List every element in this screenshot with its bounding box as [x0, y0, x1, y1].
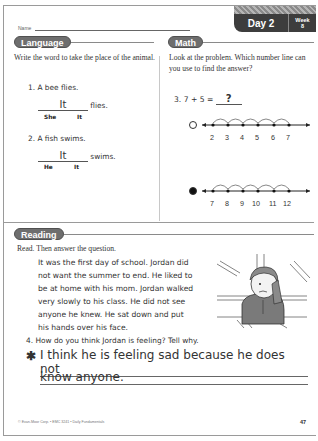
- math-problem: 3. 7 + 5 = ?: [174, 94, 242, 105]
- number-line-2-bubble-selected[interactable]: [189, 187, 197, 195]
- story-line: be at home with his mom. Jordan walked: [38, 282, 223, 295]
- nl1-label: 5: [255, 133, 259, 142]
- language-header: Language: [14, 36, 154, 48]
- number-line-1: 2 3 4 5 6 7: [202, 110, 312, 146]
- language-item-2: 2. A fish swims.: [28, 134, 86, 143]
- language-answer-2: It swims.: [38, 151, 116, 162]
- story-line: his hands over his face.: [38, 321, 223, 334]
- answer-blank-1[interactable]: It: [38, 100, 88, 111]
- story-line: anyone he knew. He sat down and put: [38, 308, 223, 321]
- reading-instructions: Read. Then answer the question.: [17, 244, 116, 255]
- nl2-label: 9: [240, 199, 244, 208]
- question-text: How do you think Jordan is feeling? Tell…: [35, 336, 198, 345]
- week-number: 8: [301, 23, 304, 29]
- language-rule: [71, 42, 154, 43]
- math-answer-blank[interactable]: ?: [216, 94, 242, 105]
- asterisk-icon: ✱: [26, 349, 36, 363]
- nl2-label: 12: [283, 199, 291, 208]
- math-instructions: Look at the problem. Which number line c…: [169, 53, 315, 74]
- item-sentence: A bee flies.: [37, 83, 78, 92]
- language-item-1: 1. A bee flies.: [28, 83, 78, 92]
- page-number: 47: [300, 419, 306, 425]
- number-line-1-graphic: [202, 110, 312, 132]
- math-header: Math: [168, 36, 314, 48]
- nl2-label: 11: [269, 199, 276, 208]
- day-week-tab: Day 2 Week 8: [234, 14, 316, 32]
- item-sentence: A fish swims.: [37, 134, 85, 143]
- choice-1a[interactable]: She: [44, 114, 56, 120]
- nl1-label: 3: [225, 133, 229, 142]
- story-line: very slowly to his class. He did not see: [38, 295, 223, 308]
- reading-title: Reading: [14, 228, 64, 240]
- language-answer-1: It flies.: [38, 100, 108, 111]
- reading-header: Reading: [14, 228, 314, 240]
- language-instructions: Write the word to take the place of the …: [14, 53, 156, 64]
- math-rule: [203, 42, 314, 43]
- reading-rule: [64, 234, 314, 235]
- reading-question: 4. How do you think Jordan is feeling? T…: [26, 336, 199, 345]
- day-label: Day 2: [234, 14, 289, 32]
- reading-story: It was the first day of school. Jordan d…: [38, 256, 223, 334]
- question-number: 4.: [26, 336, 33, 345]
- language-title: Language: [14, 36, 71, 48]
- story-line: It was the first day of school. Jordan d…: [38, 256, 223, 269]
- choice-2b[interactable]: It: [74, 164, 79, 170]
- answer-blank-2[interactable]: It: [38, 151, 88, 162]
- nl2-label: 10: [252, 199, 260, 208]
- header-pattern-band: [234, 6, 316, 14]
- copyright-footer: © Evan-Moor Corp. • EMC 3241 • Daily Fun…: [18, 420, 104, 424]
- sentence-ending-1: flies.: [90, 101, 107, 110]
- sentence-ending-2: swims.: [90, 152, 115, 161]
- column-divider: [159, 56, 160, 221]
- nl1-label: 7: [286, 133, 290, 142]
- nl1-label: 2: [210, 133, 214, 142]
- choice-1b[interactable]: It: [77, 114, 82, 120]
- nl1-label: 4: [240, 133, 244, 142]
- item-number: 1.: [28, 83, 35, 92]
- story-line: not want the summer to end. He liked to: [38, 269, 223, 282]
- number-line-2: 7 8 9 10 11 12: [202, 176, 312, 212]
- problem-number: 3.: [174, 95, 181, 104]
- answer-line-2[interactable]: know anyone.: [40, 370, 308, 385]
- equation: 7 + 5 =: [184, 95, 214, 104]
- name-label: Name: [18, 25, 31, 31]
- nl2-label: 7: [210, 199, 214, 208]
- name-line[interactable]: [35, 27, 190, 31]
- math-title: Math: [168, 36, 203, 48]
- worksheet-page: Day 2 Week 8 Name Language Write the wor…: [3, 5, 316, 436]
- number-line-1-bubble[interactable]: [189, 121, 197, 129]
- sad-boy-illustration: [212, 254, 312, 329]
- section-separator: [4, 222, 314, 223]
- name-field[interactable]: Name: [18, 25, 190, 31]
- choice-2a[interactable]: He: [44, 164, 53, 170]
- nl1-label: 6: [271, 133, 275, 142]
- nl2-label: 8: [225, 199, 229, 208]
- item-number: 2.: [28, 134, 35, 143]
- week-box: Week 8: [289, 14, 316, 32]
- number-line-2-graphic: [202, 176, 312, 198]
